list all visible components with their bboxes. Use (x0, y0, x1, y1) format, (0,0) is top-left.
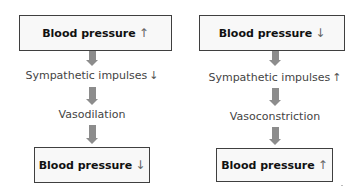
left-bottom-box-label: Blood pressure (39, 159, 133, 172)
right-step1-text: Sympathetic impulses (208, 71, 330, 84)
right-bottom-box: Blood pressure ↑ (216, 148, 333, 182)
left-step2-label: Vasodilation (59, 108, 126, 121)
up-arrow-icon: ↑ (139, 26, 149, 40)
right-step2-label: Vasoconstriction (230, 110, 320, 123)
right-top-box: Blood pressure ↓ (199, 15, 345, 51)
down-arrow-icon: ↓ (149, 69, 158, 82)
left-bottom-box: Blood pressure ↓ (34, 147, 150, 183)
left-top-box: Blood pressure ↑ (19, 15, 172, 51)
right-step1-label: Sympathetic impulses↑ (208, 71, 341, 84)
down-arrow-icon: ↓ (135, 158, 145, 172)
left-step1-text: Sympathetic impulses (25, 69, 147, 82)
left-top-box-label: Blood pressure (42, 27, 136, 40)
down-arrow-icon (269, 88, 281, 106)
down-arrow-icon (86, 51, 98, 66)
down-arrow-icon (269, 51, 281, 66)
stray-dot (341, 185, 343, 186)
right-bottom-box-label: Blood pressure (221, 159, 315, 172)
left-step1-label: Sympathetic impulses↓ (25, 69, 158, 82)
right-top-box-label: Blood pressure (219, 27, 313, 40)
down-arrow-icon: ↓ (315, 26, 325, 40)
down-arrow-icon (86, 87, 98, 105)
down-arrow-icon (86, 125, 98, 144)
up-arrow-icon: ↑ (318, 158, 328, 172)
down-arrow-icon (269, 127, 281, 145)
up-arrow-icon: ↑ (332, 71, 341, 84)
